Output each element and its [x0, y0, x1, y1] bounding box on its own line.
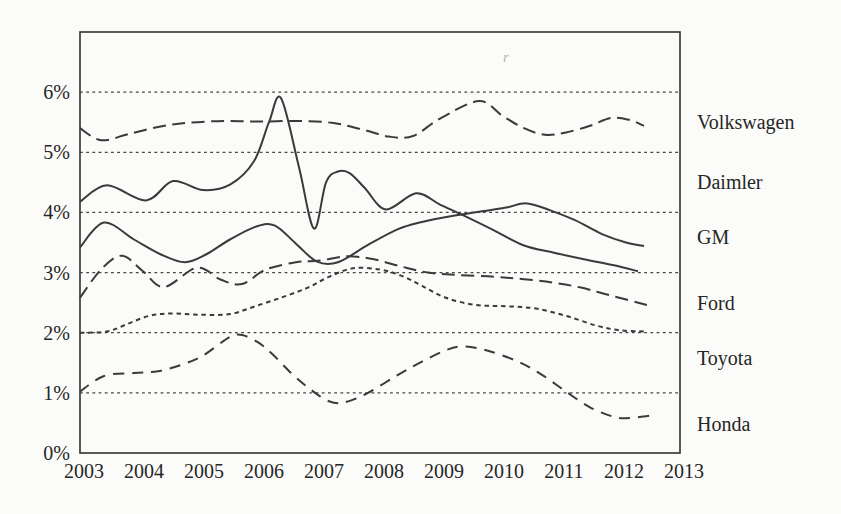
series-label-toyota: Toyota: [697, 347, 752, 370]
y-tick-label-6%: 6%: [43, 81, 70, 103]
x-tick-label-2011: 2011: [544, 460, 583, 482]
plot-border: [80, 32, 680, 453]
y-tick-label-3%: 3%: [43, 262, 70, 284]
x-tick-label-2004: 2004: [124, 460, 164, 482]
x-tick-label-2008: 2008: [364, 460, 404, 482]
line-chart: 0%1%2%3%4%5%6%20032004200520062007200820…: [0, 0, 841, 514]
series-line-honda: [80, 334, 650, 418]
series-label-daimler: Daimler: [697, 171, 763, 193]
x-tick-label-2005: 2005: [184, 460, 224, 482]
x-tick-label-2007: 2007: [304, 460, 344, 482]
x-tick-label-2013: 2013: [664, 460, 704, 482]
series-line-ford: [80, 256, 647, 305]
y-tick-label-4%: 4%: [43, 201, 70, 223]
series-label-volkswagen: Volkswagen: [697, 111, 794, 134]
series-label-gm: GM: [697, 226, 729, 248]
x-tick-label-2010: 2010: [484, 460, 524, 482]
y-tick-label-5%: 5%: [43, 141, 70, 163]
scan-artifact-mark: r: [503, 49, 509, 65]
x-tick-label-2006: 2006: [244, 460, 284, 482]
series-line-daimler: [80, 97, 638, 272]
y-tick-label-1%: 1%: [43, 382, 70, 404]
scanned-figure-page: 0%1%2%3%4%5%6%20032004200520062007200820…: [0, 0, 841, 514]
x-tick-label-2009: 2009: [424, 460, 464, 482]
x-tick-label-2003: 2003: [64, 460, 104, 482]
series-line-toyota: [80, 268, 644, 333]
series-label-ford: Ford: [697, 292, 735, 314]
y-tick-label-2%: 2%: [43, 322, 70, 344]
x-tick-label-2012: 2012: [604, 460, 644, 482]
series-label-honda: Honda: [697, 413, 750, 435]
series-line-volkswagen: [80, 101, 644, 140]
